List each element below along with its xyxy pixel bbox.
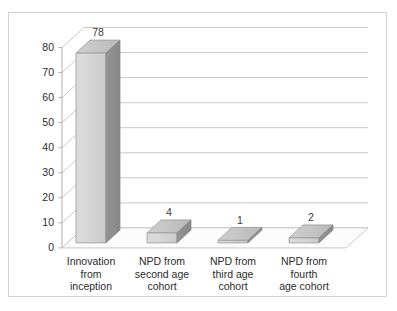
bar-value-label-1: 4 (149, 207, 189, 218)
y-tick-label-10: 10 (26, 217, 54, 228)
back-wall (84, 28, 368, 229)
x-category-label-3-line-0: NPD from (261, 255, 347, 268)
x-category-label-3-line-1: fourth (261, 268, 347, 281)
bar-value-label-2: 1 (220, 215, 260, 226)
bar-series-item-0[interactable] (76, 40, 120, 243)
y-tick-label-70: 70 (26, 67, 54, 78)
y-tick-label-80: 80 (26, 42, 54, 53)
bar-value-label-3: 2 (291, 212, 331, 223)
x-category-label-3-line-2: age cohort (261, 280, 347, 293)
y-tick-label-0: 0 (26, 242, 54, 253)
bar-value-label-0: 78 (78, 27, 118, 38)
y-tick-label-30: 30 (26, 167, 54, 178)
x-category-label-3: NPD from fourth age cohort (261, 255, 347, 293)
chart-container: 80 70 60 50 40 30 20 10 0 78 4 1 2 Innov… (0, 0, 397, 311)
y-axis (59, 48, 63, 248)
y-tick-label-40: 40 (26, 142, 54, 153)
y-tick-label-20: 20 (26, 192, 54, 203)
y-tick-label-50: 50 (26, 117, 54, 128)
y-tick-label-60: 60 (26, 92, 54, 103)
